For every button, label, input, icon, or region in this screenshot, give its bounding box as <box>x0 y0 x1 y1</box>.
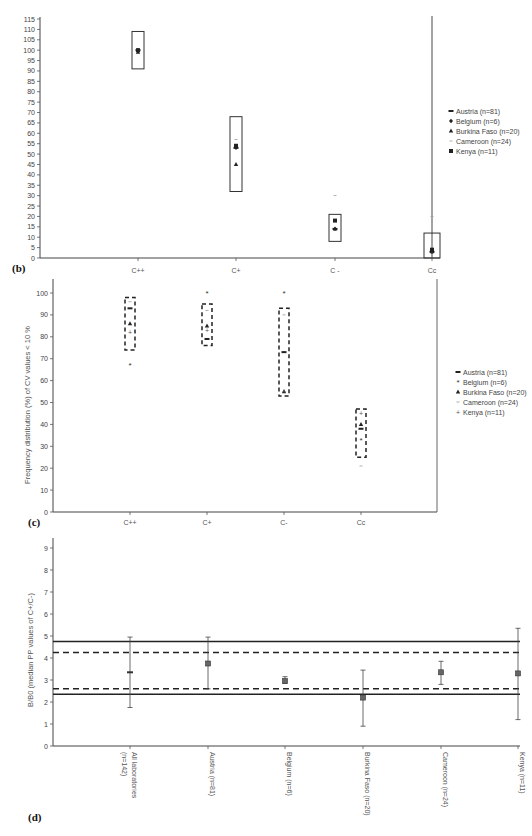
legend-entry: Cameroon (n=24) <box>456 138 511 146</box>
marker-minus-icon <box>283 315 286 316</box>
legend-entry: Austria (n=81) <box>456 108 500 116</box>
y-tick-label: 3 <box>44 677 48 684</box>
y-tick-label: 80 <box>27 88 35 95</box>
y-tick-label: 60 <box>40 377 48 384</box>
range-box <box>230 117 242 192</box>
marker-asterisk-icon: * <box>282 289 285 298</box>
y-tick-label: 75 <box>27 99 35 106</box>
marker-square-icon <box>430 248 434 252</box>
figure-canvas: 0510152025303540455055606570758085909510… <box>0 0 532 836</box>
panel-d-reference-lines <box>53 642 520 695</box>
y-tick-label: 100 <box>23 47 35 54</box>
y-tick-label: 25 <box>27 203 35 210</box>
y-tick-label: 20 <box>27 213 35 220</box>
y-tick-label: 5 <box>31 244 35 251</box>
marker-square-icon <box>206 661 211 666</box>
y-tick-label: 65 <box>27 119 35 126</box>
marker-asterisk-icon: * <box>359 436 362 445</box>
y-tick-label: 60 <box>27 130 35 137</box>
marker-asterisk-icon: * <box>456 378 459 387</box>
panel-c-chart: 0102030405060708090100C++C+C-Cc ****++++… <box>23 279 527 529</box>
marker-square-icon <box>516 671 521 676</box>
legend-entry: Kenya (n=11) <box>463 409 505 417</box>
marker-triangle-icon <box>234 162 238 166</box>
x-category-label: C - <box>330 267 340 274</box>
panel-b-boxes <box>132 31 440 258</box>
marker-diamond-icon <box>449 119 453 123</box>
marker-square-icon <box>439 670 444 675</box>
y-tick-label: 10 <box>40 487 48 494</box>
panel-d-label: (d) <box>28 811 42 824</box>
marker-square-icon <box>333 219 337 223</box>
marker-minus-icon <box>334 195 337 196</box>
y-tick-label: 50 <box>27 151 35 158</box>
y-tick-label: 50 <box>40 399 48 406</box>
x-category-label: (n=142) <box>120 752 128 776</box>
marker-square-icon <box>234 144 238 148</box>
y-tick-label: 85 <box>27 78 35 85</box>
y-tick-label: 2 <box>44 699 48 706</box>
marker-minus-icon <box>206 310 209 311</box>
x-category-label: Cc <box>357 519 366 526</box>
legend-entry: Belgium (n=6) <box>456 118 500 126</box>
panel-b-data-points <box>136 48 435 254</box>
panel-c-label: (c) <box>28 516 41 529</box>
panel-b-legend: Austria (n=81)Belgium (n=6)Burkina Faso … <box>449 108 520 156</box>
marker-dash-icon <box>359 428 364 430</box>
legend-entry: Burkina Faso (n=20) <box>456 128 520 136</box>
y-tick-label: 1 <box>44 721 48 728</box>
y-tick-label: 70 <box>40 355 48 362</box>
marker-asterisk-icon: * <box>205 289 208 298</box>
y-tick-label: 70 <box>27 109 35 116</box>
marker-dash-icon <box>205 338 210 340</box>
y-tick-label: 7 <box>44 589 48 596</box>
x-category-label: Kenya (n=11) <box>518 752 526 794</box>
y-tick-label: 40 <box>27 171 35 178</box>
legend-entry: Belgium (n=6) <box>463 379 507 387</box>
panel-d-chart: 0123456789All laboratories(n=142)Austria… <box>26 538 526 824</box>
marker-dash-icon <box>282 351 287 353</box>
legend-entry: Burkina Faso (n=20) <box>463 389 527 397</box>
y-tick-label: 6 <box>44 611 48 618</box>
marker-square-icon <box>136 48 140 52</box>
y-tick-label: 30 <box>27 192 35 199</box>
y-tick-label: 0 <box>44 743 48 750</box>
x-category-label: Cameroon (n=24) <box>441 752 449 807</box>
legend-entry: Kenya (n=11) <box>456 148 498 156</box>
marker-minus-icon <box>457 402 460 403</box>
y-tick-label: 4 <box>44 655 48 662</box>
panel-b-label: (b) <box>12 262 26 275</box>
marker-plus-icon: + <box>359 410 363 417</box>
legend-entry: Cameroon (n=24) <box>463 399 518 407</box>
y-tick-label: 115 <box>24 16 35 23</box>
panel-c-y-axis-title: Frequency distribution (%) of CV values … <box>23 326 32 484</box>
y-tick-label: 0 <box>44 509 48 516</box>
x-category-label: Austria (n=81) <box>208 752 216 796</box>
panel-d-y-axis-title: B/B0 (median PP values of C+/C-) <box>26 593 35 707</box>
panel-c-legend: Austria (n=81)*Belgium (n=6)Burkina Faso… <box>456 369 527 417</box>
x-category-label: C- <box>280 519 288 526</box>
marker-triangle-icon <box>128 321 132 325</box>
marker-minus-icon <box>129 301 132 302</box>
marker-plus-icon: + <box>282 388 286 395</box>
panel-b-axes: 0510152025303540455055606570758085909510… <box>23 16 440 275</box>
y-tick-label: 5 <box>44 633 48 640</box>
y-tick-label: 95 <box>27 57 35 64</box>
y-tick-label: 9 <box>44 545 48 552</box>
marker-dash-icon <box>127 671 133 673</box>
marker-triangle-icon <box>359 422 363 426</box>
panel-c-data-points: ****++++ <box>128 289 364 466</box>
y-tick-label: 80 <box>40 333 48 340</box>
marker-plus-icon: + <box>205 327 209 334</box>
marker-square-icon <box>449 149 453 153</box>
marker-asterisk-icon: * <box>128 361 131 370</box>
y-tick-label: 90 <box>40 311 48 318</box>
x-category-label: Burkina Faso (n=20) <box>363 752 371 816</box>
y-tick-label: 90 <box>27 67 35 74</box>
panel-c-boxes <box>125 297 366 457</box>
x-category-label: All laboratories <box>131 752 138 799</box>
marker-dash-icon <box>456 371 461 373</box>
panel-d-error-bars <box>127 628 521 726</box>
marker-minus-icon <box>431 216 434 217</box>
y-tick-label: 45 <box>27 161 35 168</box>
